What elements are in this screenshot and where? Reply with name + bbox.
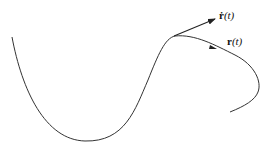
tangent-label: ṙ(t)	[219, 9, 234, 21]
curve-label: r(t)	[227, 35, 242, 47]
tangent-label-arg: (t)	[224, 9, 234, 21]
tangent-vector-arrow	[174, 19, 215, 36]
curve-label-arg: (t)	[232, 35, 242, 47]
diagram-canvas: ṙ(t) r(t)	[0, 0, 270, 146]
curve-r	[12, 36, 259, 141]
curve-drawing	[0, 0, 270, 146]
